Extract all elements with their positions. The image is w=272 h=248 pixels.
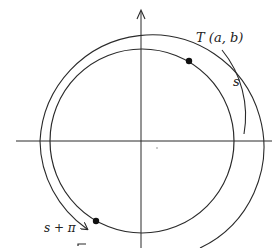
arc-s-plus-pi-label: s + π: [44, 221, 76, 235]
origin-speck: [156, 147, 158, 149]
arc-s-label: s: [233, 74, 240, 89]
bottom-tick-mark: [78, 244, 86, 246]
point-s-plus-pi: [93, 218, 99, 224]
point-t: [186, 58, 192, 64]
point-t-label: T (a, b): [196, 30, 243, 45]
